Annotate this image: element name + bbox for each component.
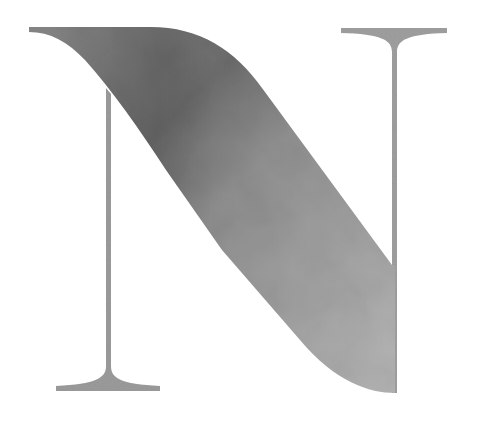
letter-n-graphic bbox=[0, 0, 477, 423]
diagonal-stroke bbox=[29, 27, 395, 393]
letter-n-artwork: N bbox=[0, 0, 477, 423]
